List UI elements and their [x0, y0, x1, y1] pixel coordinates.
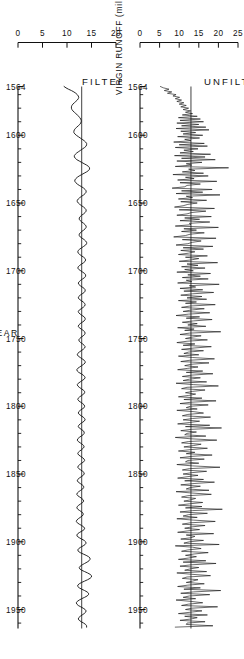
x-tick-label: 1750 — [128, 334, 148, 343]
unfiltered-plot: 1564160016501700175018001850190019500510… — [122, 0, 244, 659]
x-tick-label: 1850 — [6, 470, 26, 479]
y-tick-label: 20 — [213, 28, 223, 37]
y-axis: 05101520 — [16, 28, 121, 47]
x-tick-label: 1900 — [128, 537, 148, 546]
x-tick-label: 1950 — [128, 605, 148, 614]
x-tick-label: 1850 — [128, 470, 148, 479]
panel-unfiltered: 1564160016501700175018001850190019500510… — [122, 0, 244, 659]
x-tick-label: 1650 — [6, 199, 26, 208]
y-tick-label: 0 — [138, 28, 143, 37]
x-tick-label: 1650 — [128, 199, 148, 208]
x-tick-label: 1700 — [6, 266, 26, 275]
y-axis: 0510152025 — [138, 28, 243, 47]
figure-canvas: 1564160016501700175018001850190019500510… — [0, 0, 244, 659]
x-tick-label: 1564 — [128, 82, 148, 91]
panel-title: UNFILTERED — [204, 75, 244, 86]
filtered-plot: 1564160016501700175018001850190019500510… — [0, 0, 122, 659]
x-axis: 156416001650170017501800185019001950 — [6, 82, 26, 628]
y-tick-label: 20 — [111, 28, 121, 37]
x-axis: 156416001650170017501800185019001950 — [128, 82, 148, 628]
filtered-series-line — [64, 86, 91, 627]
y-tick-label: 5 — [40, 28, 45, 37]
y-tick-label: 25 — [233, 28, 243, 37]
x-tick-label: 1900 — [6, 537, 26, 546]
y-tick-label: 5 — [157, 28, 162, 37]
x-tick-label: 1800 — [6, 402, 26, 411]
x-axis-title: YEAR — [0, 327, 19, 337]
panel-title: FILTERED — [82, 75, 122, 86]
y-tick-label: 15 — [87, 28, 97, 37]
panel-filtered: 1564160016501700175018001850190019500510… — [0, 0, 122, 659]
y-tick-label: 0 — [16, 28, 21, 37]
y-tick-label: 15 — [194, 28, 204, 37]
y-tick-label: 10 — [174, 28, 184, 37]
x-tick-label: 1564 — [6, 82, 26, 91]
x-tick-label: 1950 — [6, 605, 26, 614]
x-tick-label: 1700 — [128, 266, 148, 275]
x-tick-label: 1600 — [128, 131, 148, 140]
x-tick-label: 1800 — [128, 402, 148, 411]
unfiltered-series-line — [160, 86, 228, 627]
x-tick-label: 1600 — [6, 131, 26, 140]
rotated-figure-group: 1564160016501700175018001850190019500510… — [0, 0, 244, 659]
y-tick-label: 10 — [62, 28, 72, 37]
